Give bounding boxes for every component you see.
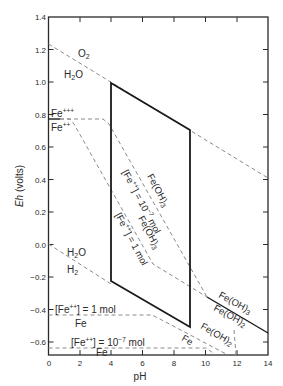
x-axis-title: pH xyxy=(134,371,147,382)
y-tick-label: 0.8 xyxy=(35,111,47,120)
y-tick-label: −0.6 xyxy=(30,338,46,347)
fe2-1e-7-label: [Fe++] = 10−7 mol xyxy=(71,336,145,348)
x-tick-label: 10 xyxy=(201,359,210,368)
eh-ph-diagram: 0 2 4 6 8 10 12 14 1.4 1.2 1.0 0.8 0.6 0… xyxy=(0,0,283,386)
y-tick-label: 0.2 xyxy=(35,208,47,217)
y-tick-labels: 1.4 1.2 1.0 0.8 0.6 0.4 0.2 0.0 −0.2 −0.… xyxy=(30,13,46,347)
feoh2-lower-label: Fe(OH)2 xyxy=(199,320,236,348)
x-tick-label: 12 xyxy=(233,359,242,368)
y-axis-title: Eh (volts) xyxy=(14,165,25,207)
fe-metal-label-lower: Fe xyxy=(96,347,108,358)
x-tick-labels: 0 2 4 6 8 10 12 14 xyxy=(47,359,273,368)
x-tick-label: 4 xyxy=(109,359,114,368)
fe-lower-right-label: Fe xyxy=(180,332,195,347)
h2o-lower-label: H2O xyxy=(67,247,86,259)
x-tick-label: 8 xyxy=(172,359,177,368)
feoh3-boundary-1mol xyxy=(60,119,207,297)
y-tick-label: −0.2 xyxy=(30,273,46,282)
y-tick-label: 1.2 xyxy=(35,46,47,55)
x-tick-label: 0 xyxy=(47,359,52,368)
fe3-label: Fe+++ xyxy=(51,107,74,119)
o2-label: O2 xyxy=(78,48,90,60)
y-tick-label: 0.4 xyxy=(35,176,47,185)
y-tick-label: −0.4 xyxy=(30,306,46,315)
fe2-label: Fe++ xyxy=(51,121,70,133)
y-tick-label: 0.0 xyxy=(35,241,47,250)
fe2-1mol-label: [Fe++] = 1 mol xyxy=(55,303,116,315)
y-tick-label: 1.4 xyxy=(35,13,47,22)
x-tick-label: 6 xyxy=(140,359,145,368)
y-tick-label: 1.0 xyxy=(35,78,47,87)
feoh2-fe-boundary xyxy=(234,330,236,355)
fe2-fe-boundary-1e-7 xyxy=(49,348,217,355)
h2o-upper-label: H2O xyxy=(64,69,83,81)
feoh3-boundary-1e-7 xyxy=(60,119,207,297)
y-tick-label: 0.6 xyxy=(35,143,47,152)
fe-metal-label-upper: Fe xyxy=(75,318,87,329)
x-tick-label: 2 xyxy=(78,359,83,368)
h2-label: H2 xyxy=(67,264,78,276)
x-tick-label: 14 xyxy=(264,359,273,368)
